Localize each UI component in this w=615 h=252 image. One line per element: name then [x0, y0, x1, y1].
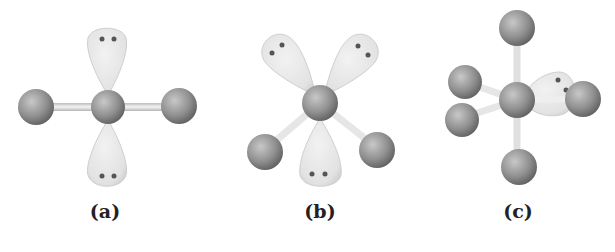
panel-label-c: (c) — [493, 200, 543, 222]
lone-pair-lobe-bottom — [87, 120, 126, 186]
atom-right — [161, 88, 197, 124]
atom-top — [499, 10, 535, 46]
atom-center — [499, 82, 535, 118]
atom-center — [91, 90, 125, 124]
electron-dot — [310, 172, 315, 177]
atom-lower-left — [445, 103, 479, 137]
electron-dot — [112, 174, 117, 179]
panel-a: (a) — [0, 0, 210, 252]
lone-pair-lobe-top — [87, 28, 126, 95]
atom-upper-left — [448, 65, 482, 99]
lone-pair-lobe-upper-right — [324, 34, 378, 96]
electron-dot — [280, 43, 285, 48]
electron-dot — [100, 37, 105, 42]
atom-lower-left — [247, 134, 283, 170]
molecule-a-diagram — [0, 0, 210, 200]
molecule-c-diagram — [420, 0, 615, 200]
atom-center — [302, 85, 338, 121]
molecule-b-diagram — [210, 0, 420, 200]
electron-dot — [556, 78, 561, 83]
electron-dot — [270, 51, 275, 56]
electron-dot — [356, 44, 361, 49]
atom-bottom — [501, 149, 537, 185]
atom-right — [565, 81, 601, 117]
lone-pair-lobe-bottom — [300, 118, 341, 186]
electron-dot — [100, 174, 105, 179]
electron-dot — [366, 53, 371, 58]
panel-label-a: (a) — [80, 200, 130, 222]
lone-pair-lobe-upper-left — [262, 34, 316, 96]
panel-label-b: (b) — [295, 200, 345, 222]
panel-c: (c) — [420, 0, 615, 252]
electron-dot — [112, 37, 117, 42]
atom-lower-right — [359, 132, 395, 168]
electron-dot — [323, 172, 328, 177]
panel-b: (b) — [210, 0, 420, 252]
atom-left — [18, 89, 54, 125]
